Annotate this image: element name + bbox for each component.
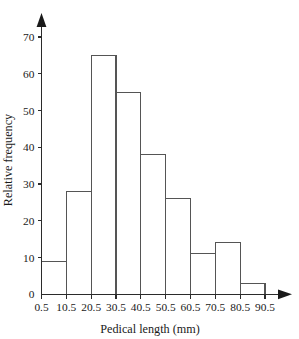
histogram-bar (166, 199, 191, 295)
histogram-bar (91, 55, 116, 294)
y-axis-tick-label: 50 (23, 105, 35, 117)
y-axis-tick-label: 20 (23, 215, 35, 227)
x-axis-tick-label: 60.5 (181, 301, 201, 313)
histogram-bar (42, 261, 67, 294)
histogram-bar (191, 254, 216, 294)
y-axis-tick-label: 70 (23, 31, 35, 43)
x-axis-tick-label: 30.5 (106, 301, 126, 313)
histogram-bar (116, 92, 141, 294)
y-axis-tick-label: 30 (23, 178, 35, 190)
histogram-bar (240, 283, 265, 294)
histogram-bar (215, 243, 240, 294)
x-axis-title: Pedical length (mm) (100, 322, 200, 336)
histogram-bar (141, 155, 166, 295)
x-axis-tick-label: 20.5 (81, 301, 101, 313)
y-axis-tick-label: 40 (23, 141, 35, 153)
x-axis-tick-label: 90.5 (255, 301, 275, 313)
x-axis-tick-label: 70.5 (205, 301, 225, 313)
histogram-svg: 010203040506070 0.510.520.530.540.550.56… (0, 0, 299, 339)
y-axis-title: Relative frequency (1, 113, 15, 206)
x-axis-tick-label: 40.5 (131, 301, 151, 313)
histogram-bar (66, 191, 91, 294)
x-axis-tick-label: 80.5 (230, 301, 250, 313)
x-axis-tick-label: 0.5 (34, 301, 49, 313)
x-axis-tick-label: 50.5 (156, 301, 176, 313)
y-axis-tick-label: 60 (23, 68, 35, 80)
y-axis-tick-label: 0 (29, 288, 35, 300)
y-axis-tick-label: 10 (23, 252, 35, 264)
x-axis-tick-label: 10.5 (56, 301, 76, 313)
histogram-chart: 010203040506070 0.510.520.530.540.550.56… (0, 0, 299, 339)
